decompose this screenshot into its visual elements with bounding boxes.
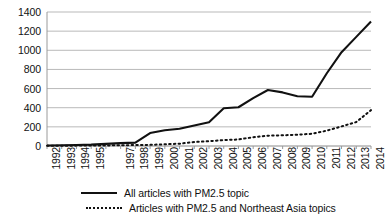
y-tick-label: 600 [24,83,41,94]
series-line-northeast-asia [47,110,371,146]
x-tick-label: 2001 [184,147,195,170]
plot-area [47,12,371,146]
legend-item-northeast-asia: Articles with PM2.5 and Northeast Asia t… [86,201,336,215]
y-axis: 1400120010008006004002000 [0,0,44,152]
solid-line-swatch-icon [81,188,117,198]
x-tick-label: 2013 [360,147,371,170]
legend-item-all-articles: All articles with PM2.5 topic [81,186,249,200]
x-tick-label: 2014 [375,147,386,170]
x-tick-label: 1997 [125,147,136,170]
x-tick-label: 2004 [228,147,239,170]
y-tick-label: 1200 [18,26,41,37]
legend-label: All articles with PM2.5 topic [124,188,249,199]
x-tick-label: 2002 [198,147,209,170]
y-tick-label: 400 [24,102,41,113]
x-tick-label: 1992 [51,147,62,170]
x-tick-label: 2011 [331,147,342,169]
y-tick-label: 0 [35,141,41,152]
legend-label: Articles with PM2.5 and Northeast Asia t… [129,203,336,214]
x-tick-label: 2005 [242,147,253,170]
dotted-line-swatch-icon [86,203,122,213]
x-tick-label: 1999 [154,147,165,170]
plot-region: 1400120010008006004002000 19921993199419… [0,0,379,152]
x-axis: 1992199319941995199719981999200020012002… [47,147,371,187]
x-tick-label: 1994 [80,147,91,170]
x-tick-label: 1998 [139,147,150,170]
x-tick-label: 2008 [287,147,298,170]
x-tick-label: 2003 [213,147,224,170]
y-tick-label: 200 [24,122,41,133]
chart-legend: All articles with PM2.5 topic Articles w… [0,186,379,220]
x-tick-label: 2009 [301,147,312,170]
x-tick-label: 2000 [169,147,180,170]
x-tick-label: 1993 [66,147,77,170]
x-tick-label: 1995 [95,147,106,170]
x-tick-label: 2006 [257,147,268,170]
y-tick-label: 800 [24,64,41,75]
x-tick-label: 2007 [272,147,283,170]
x-tick-label: 2010 [316,147,327,170]
y-tick-label: 1000 [18,45,41,56]
x-tick-label: 2012 [346,147,357,170]
y-tick-label: 1400 [18,7,41,18]
plot-svg [47,12,371,146]
